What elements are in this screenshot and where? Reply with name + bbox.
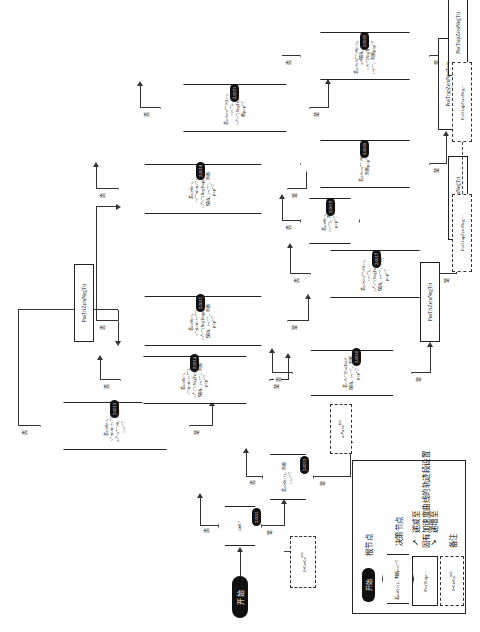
legend-note-sample: 0≺a≺amax bbox=[440, 556, 464, 606]
edge-label-no-11: 否 bbox=[284, 59, 291, 66]
edge-label-no-6: 否 bbox=[98, 324, 105, 331]
legend-row-root: 开始 根节点 bbox=[362, 534, 375, 603]
note-postrapzeroneg-1: PosTrapZeroNeg··· bbox=[452, 194, 472, 272]
legend-increase-label: 递增至 bbox=[428, 511, 439, 534]
edge-label-yes-3: 是 bbox=[192, 429, 199, 436]
decision-2-0013-id: 2.0013 bbox=[110, 400, 119, 418]
legend-note-label: 备注 bbox=[447, 533, 458, 548]
start-node: 开始 bbox=[232, 576, 248, 618]
legend-note-sample-text: 0≺a≺amax bbox=[449, 571, 456, 591]
edge-label-yes-5: 是 bbox=[414, 376, 421, 383]
legend-root-label: 根节点 bbox=[363, 534, 374, 557]
note-postrapzeroneg-2: PosTrapZeroNeg··· bbox=[452, 62, 472, 142]
note-range-a: 0≺a≺amax bbox=[290, 536, 316, 588]
legend-row-increase: ↘ 递增至 bbox=[428, 511, 439, 547]
terminal-1-label: PosTriZeroNegTri bbox=[81, 284, 87, 322]
flowchart-page: 开始 a≽0 ? 2.0011 否 是 0≺a≺amax 若a≻0(v↑)，判断… bbox=[0, 0, 480, 632]
edge-label-no-2: 否 bbox=[248, 479, 255, 486]
edge-label-yes-10: 是 bbox=[312, 111, 319, 118]
decision-2-0022-id: 2.0022 bbox=[360, 32, 369, 50]
edge-label-yes: 是 bbox=[265, 529, 272, 536]
legend-decision-sample-text: 若a≻0(v↑)，判断v≤vtgt？ bbox=[395, 558, 401, 601]
edge-label-yes-7: 是 bbox=[442, 277, 449, 284]
note-range-a-text: 0≺a≺amax bbox=[300, 552, 307, 572]
flowchart-canvas: 开始 a≽0 ? 2.0011 否 是 0≺a≺amax 若a≻0(v↑)，判断… bbox=[0, 0, 480, 632]
legend-row-note: 0≺a≺amax 备注 bbox=[440, 533, 464, 606]
decision-2-0019-id: 2.0019 bbox=[326, 198, 335, 216]
edge-label-no-4: 否 bbox=[102, 383, 109, 390]
terminal-3-label: PosTriZeroNegTri bbox=[427, 283, 433, 321]
decision-2-0012-text: 若a≻0(v↑)，判断v≤vtgt？ bbox=[282, 460, 293, 494]
legend-decrease-label: 递减至 bbox=[410, 511, 421, 534]
edge-label-no-3: 否 bbox=[20, 429, 27, 436]
decision-2-0012-id: 2.0012 bbox=[300, 456, 309, 474]
decision-2-0011-id: 2.0011 bbox=[252, 508, 261, 526]
legend-decision-label: 决策节点 bbox=[393, 516, 404, 546]
decision-2-0016-id: 2.0016 bbox=[352, 348, 361, 366]
decision-2-0017-id: 2.0017 bbox=[372, 250, 381, 268]
terminal-5-label: PosTrapZeroNegTri bbox=[455, 12, 461, 54]
edge-label-no-5: 否 bbox=[274, 376, 281, 383]
edge-label-no-7: 否 bbox=[292, 277, 299, 284]
terminal-postrizeronegtri-2: PosTriZeroNegTri bbox=[420, 262, 440, 342]
edge-label-no-9: 否 bbox=[284, 224, 291, 231]
decision-2-0011-text: a≽0 ? bbox=[237, 521, 242, 531]
note-a-increment: a↗a+amax bbox=[330, 404, 352, 454]
legend-row-decrease: ↗ 递减至 bbox=[410, 511, 421, 547]
terminal-postrizeronegtri-1: PosTriZeroNegTri bbox=[74, 264, 94, 342]
edge-label-yes-8: 是 bbox=[290, 192, 297, 199]
note-4-text: PosTrapZeroNeg··· bbox=[460, 84, 465, 120]
note-3-text: PosTrapZeroNeg··· bbox=[460, 215, 465, 251]
legend-start-sample: 开始 bbox=[362, 568, 375, 602]
note-a-increment-text: a↗a+amax bbox=[338, 420, 345, 438]
decision-2-0014-id: 2.0014 bbox=[190, 354, 199, 372]
edge-label-yes-6: 是 bbox=[290, 324, 297, 331]
decision-2-0020-id: 2.0020 bbox=[360, 140, 369, 158]
arrow-decrease-icon: ↗ bbox=[411, 539, 420, 546]
edge-label-no-8: 否 bbox=[98, 192, 105, 199]
edge-label-yes-9: 是 bbox=[432, 167, 439, 174]
legend-rect-sample: PosTrap··· bbox=[412, 556, 438, 606]
arrow-increase-icon: ↘ bbox=[429, 539, 438, 546]
edge-label-yes-2: 是 bbox=[318, 480, 325, 487]
decision-2-0021-id: 2.0021 bbox=[230, 84, 239, 102]
edge-label-no: 否 bbox=[202, 527, 209, 534]
legend-decision-sample: 若a≻0(v↑)，判断v≤vtgt？ bbox=[382, 554, 414, 604]
edge-label-yes-4: 是 bbox=[272, 383, 279, 390]
decision-2-0015-id: 2.0015 bbox=[196, 294, 205, 312]
decision-2-0018-id: 2.0018 bbox=[196, 162, 205, 180]
edge-label-no-10: 否 bbox=[142, 111, 149, 118]
